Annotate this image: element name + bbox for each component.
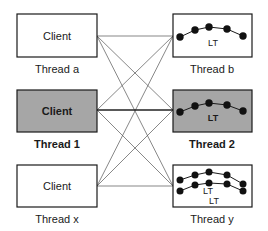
thread-label: Thread y bbox=[190, 213, 234, 225]
thread-connection-diagram: Client Thread a Client Thread 1 Client T… bbox=[0, 0, 268, 231]
connection-lines bbox=[97, 36, 173, 186]
lt-label: LT bbox=[209, 196, 219, 206]
thread-label: Thread x bbox=[35, 213, 79, 225]
client-text: Client bbox=[42, 105, 73, 117]
client-box-thread-a: Client bbox=[17, 14, 97, 57]
thread-label: Thread 2 bbox=[189, 138, 235, 150]
client-text: Client bbox=[43, 180, 71, 192]
server-box-thread-2: LT bbox=[173, 90, 252, 132]
thread-label: Thread b bbox=[190, 63, 234, 75]
client-box-thread-1: Client bbox=[17, 90, 97, 132]
server-box-thread-b: LT bbox=[173, 14, 252, 57]
client-box-thread-x: Client bbox=[17, 165, 97, 207]
thread-label: Thread 1 bbox=[34, 138, 80, 150]
lt-label: LT bbox=[203, 186, 213, 196]
lt-label: LT bbox=[208, 113, 219, 123]
client-text: Client bbox=[43, 30, 71, 42]
lt-label: LT bbox=[208, 38, 218, 48]
server-box-thread-y: LT LT bbox=[173, 165, 252, 207]
thread-label: Thread a bbox=[35, 63, 80, 75]
